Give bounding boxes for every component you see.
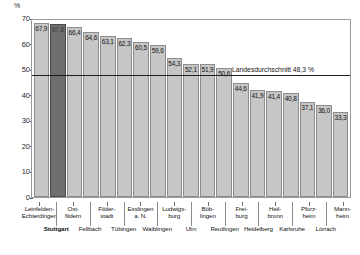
bar-slot: 40,8 [282,20,299,197]
x-axis-tick-mark [208,202,209,206]
x-axis-label-line: heim [317,213,360,220]
bar-l-rrach[interactable]: 36,0 [316,105,332,197]
bar-value-label: 62,3 [118,40,132,48]
bar-value-label: 36,0 [317,107,331,115]
x-axis-tick-mark [309,202,310,206]
y-axis-tick-label: 40 [22,92,30,100]
bar-value-label: 60,5 [134,44,148,52]
bar-value-label: 33,3 [334,114,348,122]
bar-slot: 62,3 [116,20,133,197]
x-axis-label-mannheim: Mann-heim [317,206,360,219]
bar-value-label: 67,8 [51,26,65,34]
bar-slot: 66,4 [66,20,83,197]
bar-heidelberg[interactable]: 41,9 [250,90,266,197]
y-axis-tick-70: 70 [0,19,30,27]
bar-filderstadt[interactable]: 63,1 [100,36,116,197]
bar-slot: 54,3 [166,20,183,197]
bar-slot: 64,6 [83,20,100,197]
bar-ostfildern[interactable]: 66,4 [67,27,83,197]
x-axis-category-labels: Leinfelden-EchterdingenStuttgartOst-fild… [31,199,351,255]
bar-slot: 36,0 [316,20,333,197]
x-axis-tick-mark [343,202,344,206]
bar-slot: 50,6 [216,20,233,197]
x-axis-tick-mark [242,202,243,206]
bar-slot: 37,1 [299,20,316,197]
bar-slot: 41,4 [266,20,283,197]
x-axis-tick-mark [107,202,108,206]
y-axis-tick-30: 30 [0,121,30,129]
bar-esslingen-a-n[interactable]: 60,5 [133,42,149,197]
y-axis-unit-label: % [14,2,20,10]
x-axis-label-l-rrach: Lörrach [300,226,352,233]
bar-pforzheim[interactable]: 37,1 [300,102,316,197]
bar-value-label: 41,9 [251,92,265,100]
bar-value-label: 67,9 [35,25,49,33]
bar-t-bingen[interactable]: 62,3 [117,38,133,197]
bar-value-label: 64,6 [84,34,98,42]
x-axis-tick-mark [275,202,276,206]
bar-slot: 60,5 [133,20,150,197]
bar-series: 67,967,866,464,663,162,360,559,654,352,1… [32,20,350,197]
x-axis-tick-mark [73,202,74,206]
bar-leinfelden-echterdingen[interactable]: 67,9 [34,23,50,197]
x-axis-tick-mark [140,202,141,206]
x-axis-tick-mark [39,202,40,206]
y-axis-tick-label: 60 [22,41,30,49]
bar-b-blingen[interactable]: 51,9 [200,64,216,197]
bar-slot: 44,6 [233,20,250,197]
bar-slot: 52,1 [183,20,200,197]
y-axis-tick-10: 10 [0,172,30,180]
reference-line [32,75,350,76]
bar-value-label: 54,3 [168,60,182,68]
bar-freiburg[interactable]: 44,6 [233,83,249,197]
bar-ludwigsburg[interactable]: 54,3 [167,58,183,197]
bar-value-label: 59,6 [151,47,165,55]
bar-value-label: 66,4 [68,29,82,37]
plot-area: 67,967,866,464,663,162,360,559,654,352,1… [31,19,351,198]
x-axis-tick-mark [174,202,175,206]
bar-value-label: 52,1 [184,66,198,74]
y-axis-tick-60: 60 [0,45,30,53]
bar-heilbronn[interactable]: 41,4 [266,91,282,197]
y-axis-tick-label: 20 [22,143,30,151]
bar-slot: 67,9 [33,20,50,197]
bar-value-label: 37,1 [301,104,315,112]
bar-value-label: 51,9 [201,66,215,74]
bar-stuttgart[interactable]: 67,8 [50,24,66,197]
bar-waiblingen[interactable]: 59,6 [150,45,166,197]
reference-line-label: Landesdurchschnitt 48,3 % [232,66,314,74]
bar-slot: 59,6 [149,20,166,197]
bar-value-label: 44,6 [234,85,248,93]
y-axis-tick-label: 70 [22,15,30,23]
bar-slot: 63,1 [100,20,117,197]
x-axis-label-line: Lörrach [300,226,352,233]
y-axis-tick-40: 40 [0,96,30,104]
bar-karlsruhe[interactable]: 40,8 [283,93,299,197]
y-axis-tick-50: 50 [0,70,30,78]
bar-chart: % 010203040506070 67,967,866,464,663,162… [0,0,360,255]
bar-slot: 51,9 [199,20,216,197]
y-axis-tick-label: 30 [22,117,30,125]
bar-mannheim[interactable]: 33,3 [333,112,349,197]
bar-value-label: 63,1 [101,38,115,46]
bar-slot: 41,9 [249,20,266,197]
bar-fellbach[interactable]: 64,6 [83,32,99,197]
y-axis-tick-label: 10 [22,168,30,176]
bar-reutlingen[interactable]: 50,6 [216,68,232,197]
y-axis-tick-label: 50 [22,66,30,74]
bar-value-label: 41,4 [267,93,281,101]
bar-slot: 33,3 [332,20,349,197]
y-axis-tick-20: 20 [0,147,30,155]
bar-value-label: 40,8 [284,95,298,103]
bar-ulm[interactable]: 52,1 [183,64,199,197]
bar-slot: 67,8 [50,20,67,197]
